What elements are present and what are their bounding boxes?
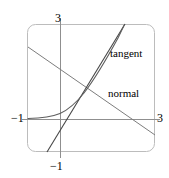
plot-canvas bbox=[0, 0, 169, 178]
normal-line-label: normal bbox=[108, 88, 139, 99]
tangent-line-label: tangent bbox=[110, 48, 142, 59]
x-axis-tick-label-right: 3 bbox=[157, 112, 163, 124]
y-axis-tick-label-bottom: −1 bbox=[50, 160, 63, 172]
math-plot-figure: 3 −1 3 −1 tangent normal bbox=[0, 0, 169, 178]
x-axis-tick-label-left: −1 bbox=[11, 112, 24, 124]
y-axis-tick-label-top: 3 bbox=[55, 12, 61, 24]
